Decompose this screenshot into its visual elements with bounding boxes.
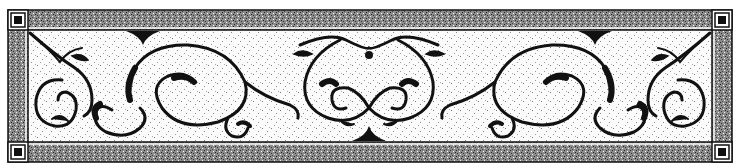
ornamental-border: [0, 0, 740, 166]
corner-square-top-right: [712, 10, 732, 30]
corner-square-bottom-left: [8, 142, 28, 162]
corner-square-bottom-right: [712, 142, 732, 162]
corner-square-top-left: [8, 10, 28, 30]
